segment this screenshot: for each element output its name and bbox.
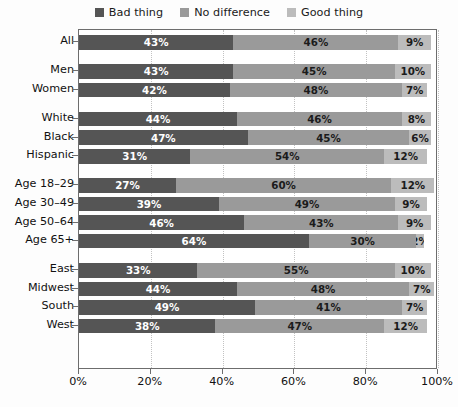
value-label: 0% [69, 375, 87, 388]
bar-value-label: 47% [287, 320, 312, 332]
value-tick [150, 369, 151, 374]
bar-row: 44%46%8% [79, 112, 436, 127]
bar-row: 39%49%9% [79, 197, 436, 212]
bar-segment: 64% [79, 234, 309, 249]
bar-segment: 43% [79, 35, 233, 50]
bar-segment: 43% [79, 64, 233, 79]
bar-segment: 7% [402, 300, 427, 315]
value-label: 100% [421, 375, 453, 388]
bar-value-label: 48% [311, 283, 336, 295]
chart-legend: Bad thing No difference Good thing [0, 6, 458, 19]
bar-segment: 48% [230, 83, 402, 98]
bar-segment: 49% [219, 197, 395, 212]
bar-value-label: 9% [406, 36, 423, 48]
bar-value-label: 46% [304, 36, 329, 48]
bar-value-label: 42% [142, 84, 167, 96]
bar-rows: 43%46%9%43%45%10%42%48%7%44%46%8%47%45%6… [79, 30, 436, 368]
value-axis-labels: 0%20%40%60%80%100% [78, 375, 437, 391]
category-label-black: Black [0, 130, 74, 143]
bar-row: 49%41%7% [79, 300, 436, 315]
bar-value-label: 31% [122, 150, 147, 162]
bar-segment: 31% [79, 149, 190, 164]
bar-value-label: 55% [284, 264, 309, 276]
value-tick [365, 369, 366, 374]
bar-row: 47%45%6% [79, 130, 436, 145]
bar-segment: 45% [233, 64, 395, 79]
bar-value-label: 7% [406, 84, 423, 96]
bar-row: 31%54%12% [79, 149, 436, 164]
bar-segment: 8% [402, 112, 431, 127]
bar-value-label: 60% [271, 179, 296, 191]
legend-item-bad-thing: Bad thing [95, 6, 163, 19]
bar-segment: 42% [79, 83, 230, 98]
bar-value-label: 44% [146, 113, 171, 125]
bar-value-label: 6% [411, 132, 428, 144]
legend-label-bad-thing: Bad thing [109, 6, 163, 19]
bar-segment: 48% [237, 282, 409, 297]
gridline [438, 30, 440, 368]
bar-segment: 46% [79, 215, 244, 230]
bar-segment: 38% [79, 319, 215, 334]
bar-value-label: 7% [406, 301, 423, 313]
value-axis-ticks [78, 369, 437, 374]
value-tick [78, 369, 79, 374]
bar-segment: 10% [395, 263, 431, 278]
value-label: 20% [137, 375, 162, 388]
bar-value-label: 41% [316, 301, 341, 313]
bar-segment: 45% [248, 130, 410, 145]
bar-row: 42%48%7% [79, 83, 436, 98]
bar-segment: 12% [384, 149, 427, 164]
bar-segment: 60% [176, 178, 391, 193]
category-label-east: East [0, 262, 74, 275]
bar-row: 38%47%12% [79, 319, 436, 334]
bar-segment: 33% [79, 263, 197, 278]
bar-value-label: 45% [316, 132, 341, 144]
bar-value-label: 10% [401, 264, 426, 276]
bar-segment: 39% [79, 197, 219, 212]
category-label-women: Women [0, 82, 74, 95]
bar-value-label: 39% [137, 198, 162, 210]
category-axis-labels: AllMenWomenWhiteBlackHispanicAge 18–29Ag… [0, 29, 74, 369]
bar-segment: 46% [233, 35, 398, 50]
value-label: 60% [281, 375, 306, 388]
value-tick [293, 369, 294, 374]
category-label-white: White [0, 111, 74, 124]
bar-value-label: 46% [149, 217, 174, 229]
bar-segment: 55% [197, 263, 394, 278]
stacked-bar-chart: Bad thing No difference Good thing AllMe… [0, 0, 458, 407]
bar-row: 43%45%10% [79, 64, 436, 79]
category-label-age-18-29: Age 18–29 [0, 177, 74, 190]
legend-label-good-thing: Good thing [301, 6, 363, 19]
category-label-age-65: Age 65+ [0, 233, 74, 246]
bar-segment: 43% [244, 215, 398, 230]
category-label-west: West [0, 318, 74, 331]
value-tick [222, 369, 223, 374]
category-label-midwest: Midwest [0, 281, 74, 294]
bar-segment: 7% [409, 282, 434, 297]
bar-value-label: 30% [350, 235, 375, 247]
bar-segment: 27% [79, 178, 176, 193]
value-label: 40% [209, 375, 234, 388]
bar-value-label: 47% [151, 132, 176, 144]
bar-value-label: 48% [304, 84, 329, 96]
legend-swatch-good-thing [287, 8, 296, 17]
bar-segment: 49% [79, 300, 255, 315]
value-tick [437, 369, 438, 374]
bar-value-label: 2% [416, 235, 423, 247]
bar-value-label: 49% [155, 301, 180, 313]
bar-row: 27%60%12% [79, 178, 436, 193]
bar-value-label: 46% [307, 113, 332, 125]
bar-segment: 9% [395, 197, 427, 212]
bar-value-label: 45% [302, 65, 327, 77]
legend-item-no-difference: No difference [180, 6, 270, 19]
bar-value-label: 64% [182, 235, 207, 247]
bar-segment: 9% [398, 215, 430, 230]
bar-segment: 46% [237, 112, 402, 127]
bar-value-label: 49% [295, 198, 320, 210]
bar-row: 33%55%10% [79, 263, 436, 278]
bar-value-label: 43% [144, 65, 169, 77]
bar-value-label: 54% [275, 150, 300, 162]
legend-item-good-thing: Good thing [287, 6, 363, 19]
bar-segment: 2% [416, 234, 423, 249]
category-label-age-30-49: Age 30–49 [0, 196, 74, 209]
